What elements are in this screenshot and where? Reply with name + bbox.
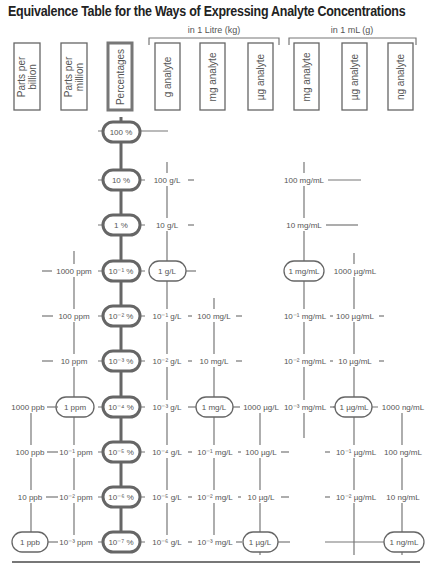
row-pct-2: 1 %: [98, 215, 145, 235]
row-pct-3: 10⁻¹ %: [98, 261, 145, 281]
svg-text:1 g/L: 1 g/L: [158, 267, 176, 276]
svg-text:1 mg/mL: 1 mg/mL: [288, 267, 320, 276]
svg-text:100 %: 100 %: [110, 128, 133, 137]
svg-text:10 mg/mL: 10 mg/mL: [286, 221, 322, 230]
row-pct-4: 10⁻² %: [98, 306, 145, 326]
col-ppm: 1000 ppm 100 ppm 10 ppm 1 ppm 10⁻¹ ppm 1…: [42, 264, 96, 548]
svg-text:10 ppm: 10 ppm: [61, 357, 88, 366]
svg-text:100 ng/mL: 100 ng/mL: [384, 448, 422, 457]
svg-text:100 mg/mL: 100 mg/mL: [284, 176, 325, 185]
svg-text:ng analyte: ng analyte: [395, 53, 406, 100]
svg-text:100 mg/L: 100 mg/L: [197, 312, 231, 321]
svg-text:10⁻² g/L: 10⁻² g/L: [153, 357, 182, 366]
header-ppm: Parts per million: [61, 43, 87, 110]
col-ug-per-l: 1000 µg/L 100 µg/L 10 µg/L 1 µg/L: [240, 400, 290, 552]
svg-text:Percentages: Percentages: [115, 49, 126, 105]
svg-text:1 µg/mL: 1 µg/mL: [339, 403, 369, 412]
svg-text:10⁻¹ %: 10⁻¹ %: [109, 267, 134, 276]
svg-text:10⁻⁴ %: 10⁻⁴ %: [108, 403, 134, 412]
row-pct-0: 100 %: [98, 122, 168, 142]
col-mg-per-ml: 100 mg/mL 10 mg/mL 1 mg/mL 10⁻¹ mg/mL 10…: [282, 173, 361, 413]
svg-text:10⁻² µg/mL: 10⁻² µg/mL: [336, 493, 377, 502]
svg-text:µg analyte: µg analyte: [349, 53, 360, 100]
svg-text:billion: billion: [27, 64, 38, 90]
col-g-per-l: 100 g/L 10 g/L 1 g/L 10⁻¹ g/L 10⁻² g/L 1…: [149, 173, 197, 548]
svg-text:10 ppb: 10 ppb: [18, 493, 43, 502]
svg-text:10⁻³ mg/L: 10⁻³ mg/L: [197, 538, 233, 547]
svg-text:10 ng/mL: 10 ng/mL: [386, 493, 420, 502]
svg-text:1000 ppb: 1000 ppb: [11, 403, 45, 412]
svg-text:10⁻³ mg/mL: 10⁻³ mg/mL: [284, 403, 327, 412]
svg-text:1000 ng/mL: 1000 ng/mL: [382, 403, 425, 412]
svg-text:g analyte: g analyte: [162, 56, 173, 97]
group-ml: in 1 mL (g): [289, 25, 416, 45]
svg-text:100 µg/L: 100 µg/L: [245, 448, 277, 457]
svg-text:100 g/L: 100 g/L: [154, 176, 181, 185]
header-ng-analyte-ml: ng analyte: [388, 43, 413, 110]
header-mg-analyte-litre: mg analyte: [200, 43, 225, 110]
svg-text:1 ppm: 1 ppm: [64, 403, 87, 412]
svg-text:100 µg/mL: 100 µg/mL: [336, 312, 375, 321]
header-mg-analyte-ml: mg analyte: [294, 43, 319, 110]
svg-text:10 g/L: 10 g/L: [156, 221, 179, 230]
header-percentages: Percentages: [108, 43, 132, 110]
svg-text:1 %: 1 %: [114, 221, 128, 230]
svg-text:10⁻² ppm: 10⁻² ppm: [59, 493, 93, 502]
row-pct-9: 10⁻⁷ %: [98, 532, 145, 552]
col-ppb: 1000 ppb 100 ppb 10 ppb 1 ppb: [11, 400, 58, 552]
row-pct-5: 10⁻³ %: [98, 351, 145, 371]
svg-text:1 µg/L: 1 µg/L: [249, 538, 272, 547]
header-ug-analyte-litre: µg analyte: [248, 43, 273, 110]
equivalence-diagram: in 1 Litre (kg) in 1 mL (g) Parts per bi…: [0, 0, 428, 572]
header-g-analyte: g analyte: [155, 43, 180, 110]
svg-text:10⁻² %: 10⁻² %: [109, 312, 134, 321]
svg-text:10⁻⁶ %: 10⁻⁶ %: [108, 493, 134, 502]
col-mg-per-l: 100 mg/L 10 mg/L 1 mg/L 10⁻¹ mg/L 10⁻² m…: [194, 309, 242, 548]
svg-text:10⁻⁴ g/L: 10⁻⁴ g/L: [152, 448, 182, 457]
group-litre: in 1 Litre (kg): [149, 25, 279, 45]
svg-text:1 ppb: 1 ppb: [20, 538, 41, 547]
svg-text:10⁻⁵ g/L: 10⁻⁵ g/L: [152, 493, 182, 502]
svg-text:10 µg/L: 10 µg/L: [248, 493, 275, 502]
svg-text:10⁻¹ mg/L: 10⁻¹ mg/L: [197, 448, 233, 457]
svg-text:1 ng/mL: 1 ng/mL: [390, 538, 419, 547]
row-pct-1: 10 %: [98, 170, 145, 190]
svg-text:10⁻² mg/L: 10⁻² mg/L: [197, 493, 233, 502]
svg-text:10⁻³ ppm: 10⁻³ ppm: [59, 538, 93, 547]
svg-text:10 µg/mL: 10 µg/mL: [338, 357, 372, 366]
group-ml-label: in 1 mL (g): [331, 25, 374, 35]
svg-text:million: million: [74, 63, 85, 91]
svg-text:10⁻⁵ %: 10⁻⁵ %: [108, 448, 134, 457]
header-ppb: Parts per billion: [14, 43, 40, 110]
svg-text:1 mg/L: 1 mg/L: [202, 403, 227, 412]
svg-text:10⁻¹ ppm: 10⁻¹ ppm: [59, 448, 93, 457]
svg-text:10⁻⁶ g/L: 10⁻⁶ g/L: [152, 538, 182, 547]
svg-text:100 ppb: 100 ppb: [16, 448, 45, 457]
svg-text:mg analyte: mg analyte: [207, 52, 218, 101]
svg-text:1000 µg/L: 1000 µg/L: [243, 403, 279, 412]
row-pct-8: 10⁻⁶ %: [98, 487, 145, 507]
svg-text:10⁻² mg/mL: 10⁻² mg/mL: [284, 357, 327, 366]
svg-text:100 ppm: 100 ppm: [58, 312, 89, 321]
row-pct-6: 10⁻⁴ %: [98, 397, 145, 417]
header-ug-analyte-ml: µg analyte: [342, 43, 367, 110]
svg-text:mg analyte: mg analyte: [301, 52, 312, 101]
svg-text:Parts per: Parts per: [63, 56, 74, 97]
svg-text:10⁻¹ µg/mL: 10⁻¹ µg/mL: [336, 448, 377, 457]
svg-text:10⁻¹ mg/mL: 10⁻¹ mg/mL: [284, 312, 327, 321]
svg-text:10⁻⁷ %: 10⁻⁷ %: [108, 538, 133, 547]
svg-text:10 %: 10 %: [112, 176, 130, 185]
svg-text:10⁻³ %: 10⁻³ %: [109, 357, 134, 366]
svg-text:10⁻³ g/L: 10⁻³ g/L: [153, 403, 182, 412]
svg-text:Parts per: Parts per: [16, 56, 27, 97]
group-litre-label: in 1 Litre (kg): [188, 25, 241, 35]
row-pct-7: 10⁻⁵ %: [98, 442, 145, 462]
svg-text:10 mg/L: 10 mg/L: [200, 357, 229, 366]
svg-text:µg analyte: µg analyte: [255, 53, 266, 100]
svg-text:10⁻¹ g/L: 10⁻¹ g/L: [153, 312, 182, 321]
svg-text:1000 µg/mL: 1000 µg/mL: [334, 267, 377, 276]
col-ng-per-ml: 1000 ng/mL 100 ng/mL 10 ng/mL 1 ng/mL: [380, 400, 426, 552]
svg-text:1000 ppm: 1000 ppm: [56, 267, 92, 276]
